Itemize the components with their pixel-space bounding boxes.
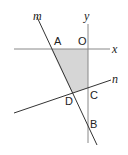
geometry-diagram: m y x n A O C D B bbox=[0, 0, 128, 155]
label-A: A bbox=[54, 35, 62, 47]
label-y: y bbox=[83, 9, 90, 23]
label-C: C bbox=[90, 89, 98, 101]
label-n: n bbox=[112, 72, 118, 86]
label-x: x bbox=[111, 42, 118, 56]
label-B: B bbox=[90, 118, 97, 130]
label-O: O bbox=[78, 35, 87, 47]
label-D: D bbox=[65, 95, 73, 107]
label-m: m bbox=[33, 9, 42, 23]
